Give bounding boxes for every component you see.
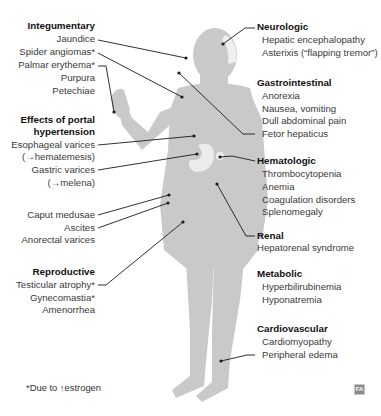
heading-reproductive: Reproductive [32, 266, 95, 279]
heading-integumentary: Integumentary [27, 20, 95, 33]
heading-gastrointestinal: Gastrointestinal [257, 77, 332, 90]
label-hyperbilirubinemia: Hyperbilirubinemia [262, 281, 341, 294]
label-dull-abdominal-pain: Dull abdominal pain [262, 115, 346, 128]
label-ascites: Ascites [64, 222, 95, 235]
label-esophageal-varices: Esophageal varices [11, 139, 95, 152]
heading-cardiovascular: Cardiovascular [257, 323, 328, 336]
heading-neurologic: Neurologic [257, 21, 308, 34]
label-palmar-erythema: Palmar erythema* [18, 59, 95, 72]
label-splenomegaly: Splenomegaly [262, 206, 323, 219]
label-purpura: Purpura [61, 72, 95, 85]
label-thrombocytopenia: Thrombocytopenia [262, 168, 341, 181]
label-anemia: Anemia [262, 181, 295, 194]
label-hyponatremia: Hyponatremia [262, 294, 322, 307]
label-asterixis: Asterixis (“flapping tremor”) [262, 47, 378, 60]
label-peripheral-edema: Peripheral edema [262, 349, 338, 362]
label-gynecomastia: Gynecomastia* [30, 292, 95, 305]
label-hepatorenal-syndrome: Hepatorenal syndrome [257, 242, 354, 255]
label-hepatic-encephalopathy: Hepatic encephalopathy [262, 34, 365, 47]
heading-portal-hypertension-1: Effects of portal [20, 114, 95, 127]
label-jaundice: Jaundice [57, 33, 95, 46]
label-anorectal-varices: Anorectal varices [21, 234, 95, 247]
publisher-logo-icon: FA [354, 384, 365, 395]
label-nausea-vomiting: Nausea, vomiting [262, 103, 336, 116]
label-petechiae: Petechiae [52, 85, 95, 98]
footnote: *Due to ↑estrogen [26, 382, 101, 393]
label-anorexia: Anorexia [262, 90, 300, 103]
label-amenorrhea: Amenorrhea [42, 304, 95, 317]
heading-hematologic: Hematologic [257, 155, 316, 168]
label-melena: (→melena) [48, 177, 95, 190]
label-caput-medusae: Caput medusae [27, 209, 95, 222]
heading-metabolic: Metabolic [257, 268, 302, 281]
label-spider-angiomas: Spider angiomas* [19, 46, 95, 59]
label-coagulation-disorders: Coagulation disorders [262, 194, 355, 207]
heading-renal: Renal [257, 230, 284, 243]
label-gastric-varices: Gastric varices [32, 164, 95, 177]
label-cardiomyopathy: Cardiomyopathy [262, 336, 332, 349]
label-fetor-hepaticus: Fetor hepaticus [262, 128, 328, 141]
label-hematemesis: (→hematemesis) [22, 151, 95, 164]
heading-portal-hypertension-2: hypertension [33, 126, 95, 139]
label-testicular-atrophy: Testicular atrophy* [16, 279, 95, 292]
